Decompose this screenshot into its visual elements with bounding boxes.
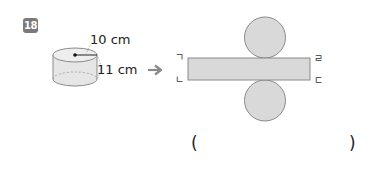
height-label: 11 cm: [97, 62, 138, 77]
corner-label-top-left: ㄱ: [175, 53, 184, 63]
corner-label-bottom-right: ㄷ: [314, 76, 323, 86]
radius-label: 10 cm: [90, 32, 131, 47]
right-arrow-icon: [148, 66, 161, 75]
net-top-circle: [245, 17, 286, 58]
answer-open-paren: (: [191, 133, 198, 153]
corner-label-top-right: ㄹ: [314, 54, 323, 64]
net-side-rectangle: [188, 58, 310, 80]
corner-label-bottom-left: ㄴ: [175, 75, 184, 85]
answer-blank[interactable]: [205, 135, 345, 157]
cylinder-figure: [53, 42, 101, 86]
net-bottom-circle: [245, 80, 286, 121]
cylinder-net: [188, 17, 310, 121]
answer-close-paren: ): [349, 133, 356, 153]
